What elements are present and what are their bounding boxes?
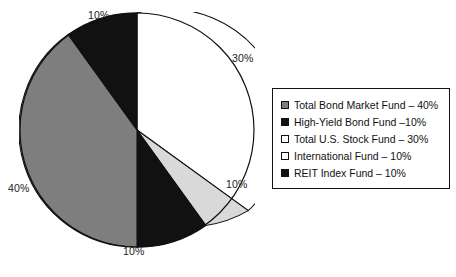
legend-item-reit-index-fund: REIT Index Fund – 10% [281, 164, 442, 181]
pie-label-left: 40% [8, 182, 29, 194]
chart-legend: Total Bond Market Fund – 40% High-Yield … [272, 88, 450, 189]
legend-item-high-yield-bond-fund: High-Yield Bond Fund –10% [281, 113, 442, 130]
pie-label-top: 10% [88, 9, 109, 21]
pie-label-lower-right: 10% [226, 178, 247, 190]
pie-svg [19, 12, 255, 248]
legend-swatch-icon [281, 101, 289, 109]
legend-item-label: REIT Index Fund – 10% [294, 167, 406, 179]
legend-item-total-bond-market-fund: Total Bond Market Fund – 40% [281, 96, 442, 113]
legend-item-total-us-stock-fund: Total U.S. Stock Fund – 30% [281, 130, 442, 147]
legend-swatch-icon [281, 152, 289, 160]
pie-chart [19, 12, 255, 248]
pie-chart-figure: 10% 30% 10% 10% 40% Total Bond Market Fu… [0, 0, 456, 277]
legend-item-label: High-Yield Bond Fund –10% [294, 116, 426, 128]
legend-item-label: Total Bond Market Fund – 40% [294, 99, 438, 111]
pie-label-right: 30% [232, 52, 253, 64]
legend-swatch-icon [281, 135, 289, 143]
pie-label-bottom: 10% [123, 245, 144, 257]
legend-item-international-fund: International Fund – 10% [281, 147, 442, 164]
legend-item-label: International Fund – 10% [294, 150, 411, 162]
legend-item-label: Total U.S. Stock Fund – 30% [294, 133, 428, 145]
legend-swatch-icon [281, 169, 289, 177]
legend-swatch-icon [281, 118, 289, 126]
